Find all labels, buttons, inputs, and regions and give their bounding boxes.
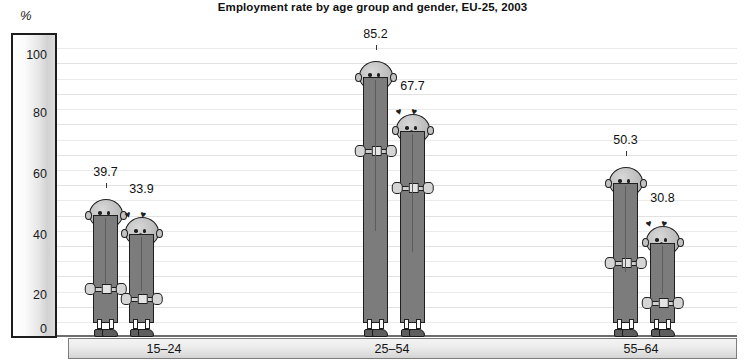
shoe-icon bbox=[102, 329, 118, 337]
bar-body bbox=[400, 131, 425, 323]
value-leader-line bbox=[626, 151, 627, 156]
hand-icon bbox=[391, 182, 402, 194]
leg-icon bbox=[367, 319, 372, 329]
bar-body bbox=[93, 215, 118, 323]
category-label-25-54: 25–54 bbox=[375, 342, 410, 356]
hand-icon bbox=[604, 257, 615, 269]
value-label-men-15-24: 39.7 bbox=[93, 165, 117, 179]
y-axis: 100 80 60 40 20 0 bbox=[11, 33, 57, 338]
bar-figure-women-55-64[interactable]: 30.8 ♥ ♥ bbox=[650, 229, 675, 337]
buckle-icon bbox=[137, 294, 147, 304]
hair-bow-icon: ♥ bbox=[660, 218, 668, 229]
eye-icon bbox=[134, 229, 138, 233]
ear-icon bbox=[121, 229, 128, 238]
value-label-women-15-24: 33.9 bbox=[129, 182, 153, 196]
hand-icon bbox=[636, 257, 647, 269]
value-label-women-55-64: 30.8 bbox=[650, 191, 674, 205]
shoe-icon bbox=[372, 329, 388, 337]
y-tick-0: 0 bbox=[40, 322, 47, 336]
eye-icon bbox=[655, 238, 659, 242]
value-label-men-25-54: 85.2 bbox=[363, 27, 387, 41]
hand-icon bbox=[386, 145, 397, 157]
plot-area: 39.7 33.9 ♥ ♥ bbox=[11, 33, 737, 337]
hair-bow-icon: ♥ bbox=[139, 209, 147, 220]
value-leader-line bbox=[376, 45, 377, 50]
chart-title: Employment rate by age group and gender,… bbox=[0, 1, 745, 13]
hair-bow-icon: ♥ bbox=[410, 106, 418, 117]
y-tick-80: 80 bbox=[33, 106, 47, 120]
eye-icon bbox=[414, 126, 418, 130]
bar-figure-men-55-64[interactable]: 50.3 bbox=[613, 169, 638, 337]
ear-icon bbox=[390, 73, 397, 82]
hair-bow-icon: ♥ bbox=[644, 218, 653, 229]
belt-hands-icon bbox=[608, 257, 643, 270]
bar-body bbox=[650, 243, 675, 323]
y-tick-100: 100 bbox=[26, 48, 47, 62]
shoe-icon bbox=[659, 329, 675, 337]
hand-icon bbox=[120, 293, 131, 305]
value-label-men-55-64: 50.3 bbox=[613, 133, 637, 147]
shoe-icon bbox=[409, 329, 425, 337]
value-label-women-25-54: 67.7 bbox=[400, 79, 424, 93]
y-tick-40: 40 bbox=[33, 228, 47, 242]
belt-hands-icon bbox=[645, 297, 680, 310]
hand-icon bbox=[423, 182, 434, 194]
buckle-icon bbox=[408, 183, 418, 193]
hand-icon bbox=[641, 297, 652, 309]
category-label-15-24: 15–24 bbox=[147, 342, 182, 356]
leg-icon bbox=[109, 319, 114, 329]
y-tick-60: 60 bbox=[33, 167, 47, 181]
ear-icon bbox=[642, 238, 649, 247]
bar-body bbox=[363, 77, 388, 323]
category-label-55-64: 55–64 bbox=[624, 342, 659, 356]
eye-icon bbox=[405, 126, 409, 130]
bar-figure-women-25-54[interactable]: 67.7 ♥ ♥ bbox=[400, 117, 425, 337]
leg-icon bbox=[145, 319, 150, 329]
leg-icon bbox=[133, 319, 138, 329]
leg-icon bbox=[629, 319, 634, 329]
hand-icon bbox=[152, 293, 163, 305]
ear-icon bbox=[427, 126, 434, 135]
eye-icon bbox=[143, 229, 147, 233]
y-axis-unit-label: % bbox=[20, 8, 32, 23]
bar-figure-women-15-24[interactable]: 33.9 ♥ ♥ bbox=[129, 220, 154, 337]
ear-icon bbox=[355, 73, 362, 82]
hand-icon bbox=[84, 283, 95, 295]
leg-icon bbox=[404, 319, 409, 329]
bar-figure-men-25-54[interactable]: 85.2 bbox=[363, 63, 388, 337]
belt-hands-icon bbox=[395, 182, 430, 195]
belt-hands-icon bbox=[124, 293, 159, 306]
ear-icon bbox=[156, 229, 163, 238]
bar-body bbox=[129, 234, 154, 323]
ear-icon bbox=[392, 126, 399, 135]
belt-hands-icon bbox=[88, 283, 123, 296]
buckle-icon bbox=[658, 298, 668, 308]
bar-figure-men-15-24[interactable]: 39.7 bbox=[93, 201, 118, 337]
buckle-icon bbox=[371, 146, 381, 156]
leg-icon bbox=[666, 319, 671, 329]
bar-body bbox=[613, 183, 638, 323]
leg-icon bbox=[97, 319, 102, 329]
leg-icon bbox=[416, 319, 421, 329]
hand-icon bbox=[354, 145, 365, 157]
buckle-icon bbox=[101, 284, 111, 294]
value-leader-line bbox=[106, 183, 107, 188]
y-tick-20: 20 bbox=[33, 288, 47, 302]
buckle-icon bbox=[621, 258, 631, 268]
leg-icon bbox=[379, 319, 384, 329]
belt-hands-icon bbox=[358, 145, 393, 158]
eye-icon bbox=[664, 238, 668, 242]
ear-icon bbox=[640, 179, 647, 188]
shoe-icon bbox=[138, 329, 154, 337]
ear-icon bbox=[85, 211, 92, 220]
hand-icon bbox=[673, 297, 684, 309]
shoe-icon bbox=[622, 329, 638, 337]
x-axis-category-strip: 15–24 25–54 55–64 bbox=[68, 338, 737, 359]
leg-icon bbox=[617, 319, 622, 329]
ear-icon bbox=[605, 179, 612, 188]
gridline-95 bbox=[11, 48, 737, 49]
leg-icon bbox=[654, 319, 659, 329]
